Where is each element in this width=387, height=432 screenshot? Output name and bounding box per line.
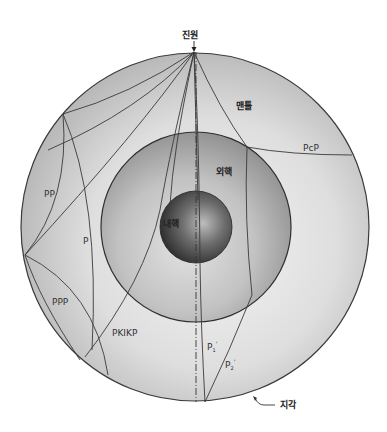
crust-label: 지각 [280, 399, 297, 410]
ppp-label: PPP [52, 297, 69, 307]
source-label: 진원 [182, 29, 198, 40]
p-label: P [83, 236, 89, 246]
mantle-label: 맨틀 [236, 100, 252, 111]
earth-cross-section-diagram: 진원 맨틀 외핵 내핵 PcP PP P PPP PKIKP P1' P2' 지… [0, 0, 387, 432]
outer-core-label: 외핵 [216, 166, 232, 177]
source-arrow-head [192, 47, 197, 52]
crust-leader-line [255, 398, 275, 405]
inner-core-label: 내핵 [163, 218, 179, 229]
pkikp-label: PKIKP [112, 328, 138, 338]
pp-label: PP [44, 189, 55, 199]
pcp-label: PcP [303, 143, 319, 153]
